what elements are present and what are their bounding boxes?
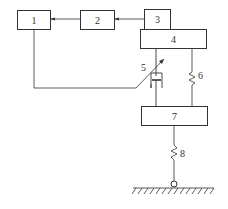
block-2-label: 2 xyxy=(95,15,100,26)
label-5: 5 xyxy=(141,62,146,73)
block-1-label: 1 xyxy=(32,15,37,26)
block-2: 2 xyxy=(80,10,115,30)
label-8: 8 xyxy=(180,148,185,159)
block-3-label: 3 xyxy=(155,14,160,25)
spring-8-icon xyxy=(171,125,177,181)
ground-icon xyxy=(132,188,214,194)
block-7: 7 xyxy=(141,106,208,126)
spring-6-icon xyxy=(189,48,195,106)
damper-icon xyxy=(151,48,162,106)
block-1: 1 xyxy=(17,10,51,30)
pivot-icon xyxy=(171,181,177,187)
block-7-label: 7 xyxy=(172,111,177,122)
block-3: 3 xyxy=(144,9,171,30)
block-4: 4 xyxy=(140,29,207,49)
label-6: 6 xyxy=(198,70,203,81)
block-4-label: 4 xyxy=(171,34,176,45)
